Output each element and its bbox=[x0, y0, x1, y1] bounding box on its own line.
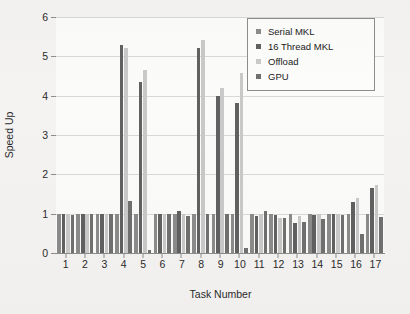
legend-label: Serial MKL bbox=[268, 26, 314, 37]
x-axis-tick-label: 8 bbox=[192, 258, 211, 270]
bar-group bbox=[191, 17, 210, 253]
bar bbox=[283, 218, 287, 253]
bar bbox=[351, 202, 355, 253]
bar bbox=[85, 214, 89, 253]
bar bbox=[336, 214, 340, 253]
bar-group bbox=[133, 17, 152, 253]
bar bbox=[186, 216, 190, 253]
x-axis-tick-label: 1 bbox=[56, 258, 75, 270]
bar bbox=[259, 214, 263, 253]
bar bbox=[182, 214, 186, 253]
bar bbox=[192, 214, 196, 253]
bar-group bbox=[75, 17, 94, 253]
bar bbox=[109, 214, 113, 253]
bar bbox=[139, 82, 143, 253]
bar bbox=[76, 214, 80, 253]
x-axis-tick-label: 12 bbox=[269, 258, 288, 270]
bar bbox=[100, 214, 104, 253]
bar bbox=[124, 48, 128, 253]
bar bbox=[225, 214, 229, 253]
bar bbox=[81, 214, 85, 253]
legend-item: Serial MKL bbox=[256, 24, 368, 39]
bar bbox=[235, 103, 239, 253]
bar bbox=[96, 214, 100, 253]
x-axis-tick-label: 11 bbox=[250, 258, 269, 270]
bar bbox=[293, 223, 297, 253]
bar bbox=[327, 214, 331, 253]
legend-item: 16 Thread MKL bbox=[256, 39, 368, 54]
x-axis-tick-label: 7 bbox=[172, 258, 191, 270]
bar bbox=[379, 217, 383, 253]
bar bbox=[158, 214, 162, 253]
bar bbox=[312, 215, 316, 253]
bar-group bbox=[56, 17, 75, 253]
bar bbox=[375, 185, 379, 253]
bar bbox=[356, 198, 360, 253]
bar bbox=[163, 214, 167, 253]
x-axis-tick-label: 16 bbox=[346, 258, 365, 270]
bar bbox=[321, 219, 325, 253]
legend-item: GPU bbox=[256, 69, 368, 84]
legend-label: Offload bbox=[268, 56, 298, 67]
bar-group bbox=[114, 17, 133, 253]
bar bbox=[264, 211, 268, 253]
bar bbox=[128, 201, 132, 253]
bar bbox=[278, 218, 282, 253]
bar bbox=[177, 211, 181, 253]
x-axis-tick-label: 15 bbox=[327, 258, 346, 270]
x-axis-title: Task Number bbox=[56, 288, 385, 300]
bar bbox=[105, 214, 109, 253]
bar bbox=[317, 214, 321, 253]
bar bbox=[244, 248, 248, 253]
bar bbox=[71, 215, 75, 253]
chart-legend: Serial MKL16 Thread MKLOffloadGPU bbox=[247, 18, 375, 91]
bar bbox=[197, 48, 201, 253]
legend-label: 16 Thread MKL bbox=[268, 41, 333, 52]
legend-swatch-icon bbox=[256, 44, 261, 49]
y-axis-tick-label: 1 bbox=[42, 208, 48, 220]
bar bbox=[148, 250, 152, 253]
x-axis-tick-label: 9 bbox=[211, 258, 230, 270]
bar bbox=[120, 45, 124, 253]
bar bbox=[298, 216, 302, 253]
bar-group bbox=[210, 17, 229, 253]
bar bbox=[167, 214, 171, 253]
y-axis-tick-label: 0 bbox=[42, 247, 48, 259]
bar-group bbox=[172, 17, 191, 253]
x-axis-tick-label: 4 bbox=[114, 258, 133, 270]
bar bbox=[289, 214, 293, 253]
bar bbox=[332, 214, 336, 253]
x-axis-tick-label: 6 bbox=[153, 258, 172, 270]
bar bbox=[308, 214, 312, 253]
bar-group bbox=[95, 17, 114, 253]
y-axis-tick bbox=[51, 253, 56, 254]
bar bbox=[240, 73, 244, 253]
bar bbox=[57, 214, 61, 253]
bar bbox=[90, 214, 94, 253]
y-axis-tick-label: 3 bbox=[42, 129, 48, 141]
bar bbox=[360, 234, 364, 253]
bar bbox=[201, 40, 205, 253]
x-axis-tick-labels: 1234567891011121314151617 bbox=[56, 258, 385, 270]
legend-swatch-icon bbox=[256, 59, 261, 64]
legend-swatch-icon bbox=[256, 29, 261, 34]
bar bbox=[370, 188, 374, 253]
bar bbox=[206, 214, 210, 253]
bar bbox=[62, 214, 66, 253]
bar bbox=[231, 214, 235, 253]
y-axis-title: Speed Up bbox=[3, 112, 15, 159]
y-axis-tick-label: 2 bbox=[42, 168, 48, 180]
bar bbox=[220, 88, 224, 253]
bar bbox=[366, 214, 370, 253]
bar bbox=[250, 214, 254, 253]
bar bbox=[154, 214, 158, 253]
y-axis-tick-label: 5 bbox=[42, 50, 48, 62]
bar bbox=[274, 215, 278, 253]
legend-label: GPU bbox=[268, 71, 289, 82]
bar bbox=[134, 214, 138, 253]
chart-figure: Speed Up 0123456 12345678910111213141516… bbox=[0, 0, 410, 314]
x-axis-tick-label: 10 bbox=[230, 258, 249, 270]
x-axis-tick-label: 17 bbox=[366, 258, 385, 270]
bar bbox=[347, 214, 351, 253]
bar bbox=[115, 214, 119, 253]
